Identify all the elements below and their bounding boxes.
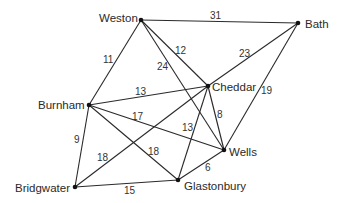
edge-weight-label: 19 [261, 85, 273, 96]
edge-burnham-cheddar [89, 86, 208, 105]
edge-weight-label: 18 [148, 146, 160, 157]
edge-cheddar-bridgwater [75, 86, 208, 187]
node-label-glastonbury: Glastonbury [184, 180, 246, 192]
edge-weight-label: 11 [103, 54, 114, 65]
edge-bath-cheddar [208, 23, 298, 86]
edge-weight-label: 8 [217, 109, 223, 120]
node-label-wells: Wells [229, 146, 257, 158]
node-burnham [87, 103, 92, 108]
node-weston [139, 18, 144, 23]
node-label-bridgwater: Bridgwater [15, 182, 70, 194]
node-cheddar [206, 84, 211, 89]
edge-weight-label: 18 [97, 152, 109, 163]
edge-wells-glastonbury [178, 150, 224, 180]
node-label-bath: Bath [305, 18, 329, 30]
graph-diagram: 311224112319131718981318615 WestonBathCh… [0, 0, 348, 203]
edge-weight-label: 6 [205, 162, 211, 173]
edge-weight-label: 17 [132, 111, 144, 122]
edge-weight-label: 13 [182, 122, 194, 133]
edge-weight-label: 24 [157, 61, 169, 72]
node-wells [222, 148, 227, 153]
edge-burnham-wells [89, 105, 224, 150]
node-labels-group: WestonBathCheddarBurnhamWellsBridgwaterG… [15, 12, 329, 194]
edge-cheddar-glastonbury [178, 86, 208, 180]
nodes-group [73, 18, 301, 190]
edge-weight-label: 9 [74, 134, 80, 145]
edge-weight-label: 13 [135, 86, 147, 97]
edge-burnham-bridgwater [75, 105, 89, 187]
node-bridgwater [73, 185, 78, 190]
edge-weight-label: 15 [124, 185, 136, 196]
node-label-cheddar: Cheddar [212, 81, 256, 93]
edge-weight-label: 23 [239, 48, 251, 59]
node-glastonbury [176, 178, 181, 183]
edge-weight-label: 12 [175, 45, 187, 56]
node-label-weston: Weston [99, 12, 138, 24]
node-label-burnham: Burnham [38, 99, 85, 111]
edge-weight-label: 31 [210, 10, 222, 21]
edges-group [75, 20, 298, 187]
edge-weston-burnham [89, 20, 141, 105]
node-bath [296, 21, 301, 26]
